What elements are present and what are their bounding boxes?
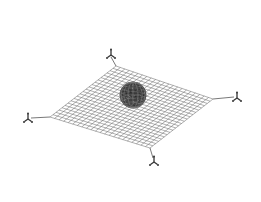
tether-left [31, 117, 50, 118]
tether-right [213, 97, 234, 99]
anchor-tripod-icon [149, 156, 159, 167]
sphere-ball [120, 82, 146, 108]
tether-bottom [150, 148, 153, 158]
net-sphere-diagram [0, 0, 261, 202]
diagram-canvas [0, 0, 261, 202]
